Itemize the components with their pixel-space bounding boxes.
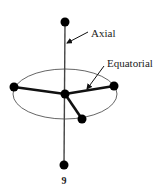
- figure-number: 9: [62, 175, 67, 186]
- atom-equatorial-front: [78, 115, 87, 124]
- axial-label: Axial: [91, 27, 115, 39]
- axial-pointer-arrow: [67, 32, 88, 43]
- equatorial-pointer-arrow: [87, 66, 104, 89]
- equatorial-bond-front: [65, 94, 82, 119]
- atom-axial-bottom: [60, 161, 69, 170]
- equatorial-bond-left: [14, 87, 65, 94]
- atom-central: [61, 90, 70, 99]
- trigonal-bipyramid-diagram: Axial Equatorial 9: [0, 0, 165, 191]
- equatorial-label: Equatorial: [107, 57, 153, 69]
- atom-equatorial-left: [10, 83, 19, 92]
- atom-axial-top: [61, 18, 70, 27]
- atom-equatorial-right: [110, 82, 119, 91]
- equatorial-bond-right: [65, 86, 114, 94]
- diagram-canvas: Axial Equatorial 9: [0, 0, 165, 191]
